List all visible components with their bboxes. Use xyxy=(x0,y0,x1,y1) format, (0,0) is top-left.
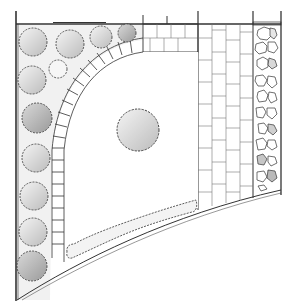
shrub-icon xyxy=(22,144,50,172)
pebble-border xyxy=(253,22,281,191)
shrub-icon xyxy=(19,28,47,56)
center-shrub-icon xyxy=(117,109,159,151)
shrub-icon xyxy=(17,251,47,281)
garden-plan-drawing xyxy=(0,0,293,302)
shrub-icon xyxy=(20,182,48,210)
shrub-icon xyxy=(90,26,112,48)
shrub-icon xyxy=(56,30,84,58)
garden-plan: Garden plan sketch xyxy=(0,0,293,302)
shrub-icon xyxy=(19,218,47,246)
paved-path xyxy=(198,24,253,210)
shrub-icon xyxy=(49,60,67,78)
top-paver-strip xyxy=(143,24,198,52)
shrub-icon xyxy=(22,103,52,133)
shrub-icon xyxy=(18,66,46,94)
shrub-icon xyxy=(118,24,136,42)
